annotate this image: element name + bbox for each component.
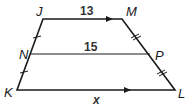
segment-label-np: 15 [84, 40, 98, 54]
segment-label-jm: 13 [80, 4, 94, 18]
vertex-label-n: N [19, 47, 29, 62]
segment-label-kl: x [92, 93, 101, 107]
parallel-arrow-jm-icon [106, 16, 113, 22]
vertex-label-k: K [4, 85, 14, 100]
vertex-label-l: L [178, 86, 185, 101]
parallel-arrow-kl-icon [124, 87, 131, 93]
vertex-label-p: P [155, 48, 164, 63]
vertex-label-m: M [126, 4, 137, 19]
trapezoid-diagram: J M N P K L 13 15 x [0, 0, 195, 107]
vertex-label-j: J [35, 4, 43, 19]
